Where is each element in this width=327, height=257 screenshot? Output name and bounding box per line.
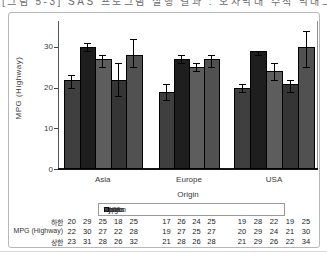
error-bar-line-asia-truck bbox=[118, 63, 119, 96]
error-bar-cap-top bbox=[84, 43, 91, 44]
error-bar-line-asia-suv bbox=[71, 75, 72, 87]
error-bar-cap-bottom bbox=[68, 88, 75, 89]
error-bar-line-asia-sports bbox=[102, 55, 103, 67]
y-axis-line bbox=[58, 21, 59, 170]
bar-europe-suv bbox=[159, 92, 175, 169]
error-bar-cap-top bbox=[178, 55, 185, 56]
error-bar-cap-bottom bbox=[130, 67, 137, 68]
table-cell: 34 bbox=[297, 237, 315, 246]
error-bar-cap-bottom bbox=[178, 63, 185, 64]
error-bar-line-asia-wagon bbox=[133, 39, 134, 67]
bar-asia-wagon bbox=[126, 55, 143, 169]
table-cell: 30 bbox=[297, 227, 315, 236]
error-bar-cap-bottom bbox=[84, 51, 91, 52]
category-label-usa: USA bbox=[244, 175, 304, 184]
error-bar-cap-bottom bbox=[163, 100, 170, 101]
table-cell: 25 bbox=[125, 217, 143, 226]
table-cell: 32 bbox=[125, 237, 143, 246]
bar-usa-wagon bbox=[298, 47, 315, 169]
right-frame-line bbox=[317, 21, 318, 170]
error-bar-line-usa-suv bbox=[242, 84, 243, 92]
chart-figure: MPG (Highway) Origin Type SUVSedanSports… bbox=[8, 12, 320, 248]
bar-asia-sedan bbox=[80, 47, 97, 169]
y-tick-label: 0 bbox=[35, 165, 53, 174]
error-bar-line-europe-suv bbox=[166, 84, 167, 100]
error-bar-cap-bottom bbox=[255, 55, 262, 56]
table-cell: 28 bbox=[125, 227, 143, 236]
table-cell: 25 bbox=[203, 217, 221, 226]
x-axis-title: Origin bbox=[158, 190, 218, 199]
error-bar-cap-top bbox=[193, 63, 200, 64]
bar-usa-suv bbox=[234, 88, 251, 169]
category-label-europe: Europe bbox=[159, 175, 219, 184]
error-bar-cap-bottom bbox=[239, 92, 246, 93]
error-bar-cap-bottom bbox=[193, 71, 200, 72]
bar-europe-sports bbox=[189, 67, 205, 169]
table-row-label: 하한 bbox=[9, 217, 63, 227]
y-tick-label: 20 bbox=[35, 83, 53, 92]
y-tick-label: 30 bbox=[35, 42, 53, 51]
chart-legend: Type SUVSedanSportsTruckWagon bbox=[98, 203, 285, 216]
error-bar-line-europe-sports bbox=[196, 63, 197, 71]
error-bar-cap-bottom bbox=[271, 80, 278, 81]
y-tick-mark bbox=[54, 128, 58, 129]
legend-label: Wagon bbox=[104, 206, 126, 213]
y-tick-mark bbox=[54, 47, 58, 48]
table-cell: 27 bbox=[203, 227, 221, 236]
table-cell: 25 bbox=[297, 217, 315, 226]
error-bar-cap-bottom bbox=[303, 67, 310, 68]
error-bar-line-usa-wagon bbox=[306, 31, 307, 68]
error-bar-cap-top bbox=[287, 80, 294, 81]
error-bar-cap-top bbox=[208, 55, 215, 56]
category-label-asia: Asia bbox=[73, 175, 133, 184]
table-cell: 28 bbox=[203, 237, 221, 246]
page-rule bbox=[0, 251, 327, 252]
error-bar-cap-top bbox=[239, 84, 246, 85]
bar-usa-sedan bbox=[250, 51, 267, 169]
error-bar-cap-bottom bbox=[99, 67, 106, 68]
error-bar-line-asia-sedan bbox=[87, 43, 88, 51]
error-bar-cap-top bbox=[99, 55, 106, 56]
bar-usa-truck bbox=[282, 84, 299, 169]
error-bar-cap-bottom bbox=[115, 96, 122, 97]
error-bar-cap-bottom bbox=[208, 67, 215, 68]
error-bar-line-europe-wagon bbox=[211, 55, 212, 67]
error-bar-line-usa-sports bbox=[274, 63, 275, 79]
bar-asia-truck bbox=[111, 80, 128, 169]
error-bar-cap-top bbox=[303, 31, 310, 32]
error-bar-cap-top bbox=[130, 39, 137, 40]
error-bar-cap-top bbox=[255, 51, 262, 52]
bar-europe-wagon bbox=[204, 59, 220, 169]
y-tick-label: 10 bbox=[35, 124, 53, 133]
bar-asia-sports bbox=[95, 59, 112, 169]
error-bar-cap-top bbox=[68, 75, 75, 76]
y-tick-mark bbox=[54, 88, 58, 89]
table-row-label: MPG (Highway) bbox=[9, 227, 63, 234]
y-tick-mark bbox=[54, 169, 58, 170]
error-bar-cap-top bbox=[115, 63, 122, 64]
y-axis-title: MPG (Highway) bbox=[14, 33, 26, 143]
error-bar-line-europe-sedan bbox=[181, 55, 182, 63]
bar-asia-suv bbox=[64, 80, 81, 169]
clipped-page-caption-text: [그림 5-3] SAS 프로그램 실행 결과 : 오차막대 수직 막대그래프 … bbox=[0, 0, 327, 8]
table-row-label: 상한 bbox=[9, 237, 63, 247]
bar-usa-sports bbox=[266, 71, 283, 169]
error-bar-cap-top bbox=[271, 63, 278, 64]
error-bar-line-usa-truck bbox=[290, 80, 291, 92]
error-bar-cap-top bbox=[163, 84, 170, 85]
error-bar-cap-bottom bbox=[287, 92, 294, 93]
clipped-page-caption: [그림 5-3] SAS 프로그램 실행 결과 : 오차막대 수직 막대그래프 … bbox=[0, 0, 327, 8]
bar-europe-sedan bbox=[174, 59, 190, 169]
